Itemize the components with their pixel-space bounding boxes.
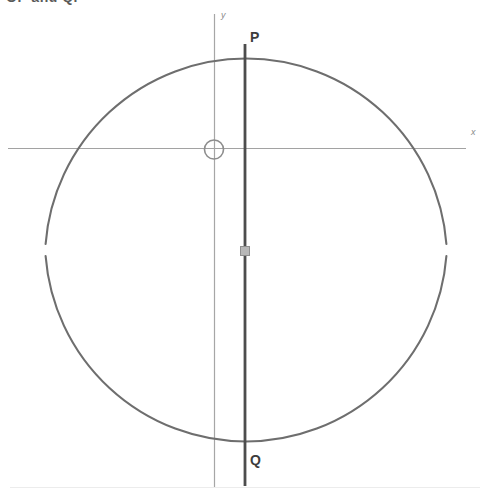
axis-label-y: y — [221, 10, 226, 20]
figure-page: OP and Q. P Q x y — [0, 0, 493, 496]
point-label-q: Q — [250, 452, 261, 468]
point-label-p: P — [250, 29, 259, 45]
bottom-divider — [10, 487, 480, 488]
geometry-figure[interactable] — [0, 0, 493, 496]
axis-label-x: x — [471, 127, 476, 137]
chord-midpoint-handle[interactable] — [241, 247, 250, 256]
